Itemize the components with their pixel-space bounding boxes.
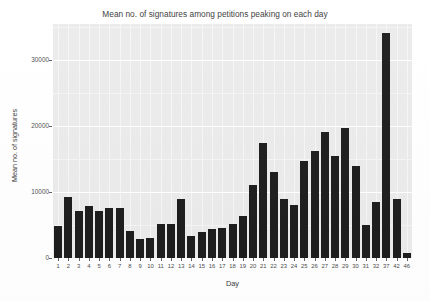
bar [116,208,124,258]
bar [95,211,103,258]
x-axis-tick-mark [243,258,244,261]
x-axis-tick-mark [397,258,398,261]
x-axis-tick-mark [407,258,408,261]
x-axis-tick-mark [58,258,59,261]
chart-title: Mean no. of signatures among petitions p… [0,9,430,19]
bar [167,224,175,258]
bar [229,224,237,258]
y-axis-tick-label: 30000 [9,56,49,63]
bar [270,172,278,258]
x-axis-tick-mark [120,258,121,261]
bar [187,236,195,258]
x-axis-tick-mark [253,258,254,261]
plot-panel [53,24,412,258]
x-axis-title: Day [53,279,412,288]
bar [64,197,72,258]
bar [259,143,267,258]
bar [218,228,226,258]
bar [105,208,113,258]
x-axis-tick-mark [161,258,162,261]
x-axis-tick-mark [140,258,141,261]
x-axis-tick-mark [202,258,203,261]
x-axis-tick-mark [99,258,100,261]
x-axis-tick-mark [150,258,151,261]
x-axis-tick-mark [109,258,110,261]
y-axis-tick-label: 0 [9,254,49,261]
x-axis-tick-mark [191,258,192,261]
bar [300,161,308,258]
x-axis-tick-mark [386,258,387,261]
x-axis-tick-mark [366,258,367,261]
y-axis-tick-mark [49,60,52,61]
x-axis-tick-mark [79,258,80,261]
bar [280,199,288,258]
x-axis-tick-mark [294,258,295,261]
y-axis-tick-labels: 0100002000030000 [5,24,49,258]
x-axis-tick-mark [304,258,305,261]
bar [352,166,360,258]
bar [198,232,206,258]
x-axis-tick-marks [53,258,412,262]
x-axis-tick-mark [89,258,90,261]
bar-chart: Mean no. of signatures among petitions p… [0,0,430,301]
x-axis-tick-mark [68,258,69,261]
bar [54,226,62,258]
x-axis-tick-mark [284,258,285,261]
x-axis-tick-labels: 1234567891011121314151617181920212223242… [53,263,412,273]
x-axis-tick-mark [181,258,182,261]
x-axis-tick-mark [171,258,172,261]
x-axis-tick-mark [315,258,316,261]
bar [85,206,93,258]
bar [146,238,154,258]
x-axis-tick-mark [274,258,275,261]
bar [136,239,144,258]
x-axis-tick-mark [345,258,346,261]
x-axis-tick-mark [130,258,131,261]
bar [311,151,319,258]
bar [75,211,83,258]
x-axis-tick-mark [263,258,264,261]
y-axis-tick-mark [49,258,52,259]
bar [208,229,216,258]
bar [393,199,401,258]
y-axis-tick-mark [49,126,52,127]
y-axis-tick-label: 10000 [9,188,49,195]
bar [321,132,329,258]
bar [126,231,134,258]
x-axis-tick-mark [376,258,377,261]
bars-layer [53,24,412,258]
x-axis-tick-mark [222,258,223,261]
bar [331,156,339,258]
bar [341,128,349,259]
bar [249,185,257,258]
x-axis-tick-mark [212,258,213,261]
x-axis-tick-label: 46 [400,263,414,269]
y-axis-tick-mark [49,192,52,193]
bar [372,202,380,258]
bar [177,199,185,258]
x-axis-tick-mark [335,258,336,261]
bar [290,205,298,258]
x-axis-tick-mark [233,258,234,261]
y-axis-tick-label: 20000 [9,122,49,129]
x-axis-tick-mark [325,258,326,261]
bar [157,224,165,258]
bar [382,33,390,258]
bar [239,216,247,258]
x-axis-tick-mark [356,258,357,261]
bar [362,225,370,258]
